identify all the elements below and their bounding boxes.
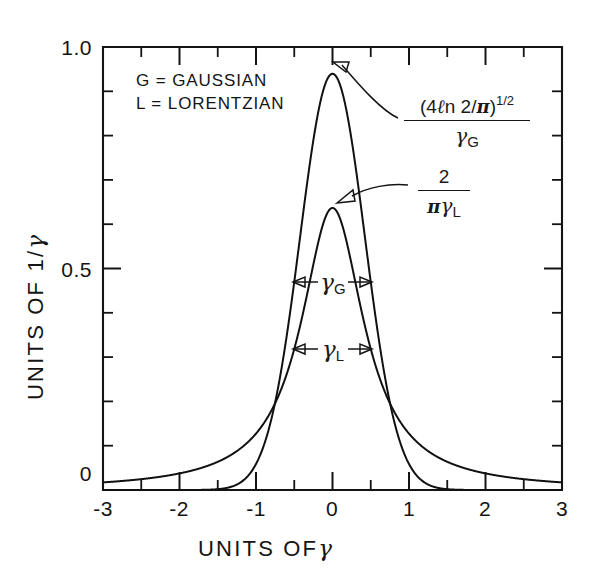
lorentzian-peak-annotation: 2 πγL bbox=[418, 166, 470, 220]
lorentzian-fraction-bar bbox=[418, 190, 470, 191]
x-axis-title-text: UNITS OF bbox=[198, 536, 318, 561]
gamma-g-width-label: γG bbox=[318, 269, 348, 297]
gaussian-peak-numerator: (4ℓn 2/π)1/2 bbox=[404, 93, 530, 119]
gamma-glyph-l: γ bbox=[440, 194, 452, 218]
gamma-l-width-subscript: L bbox=[336, 347, 344, 364]
xtick-label-1: 1 bbox=[389, 497, 429, 521]
gaussian-leader-line bbox=[342, 65, 398, 118]
gaussian-leader-arrowhead bbox=[333, 62, 349, 72]
script-l-glyph: ℓ bbox=[437, 95, 445, 117]
lineshape-comparison-figure: 1.0 0.5 0 -3 -2 -1 0 1 2 3 UNITS OFγ UNI… bbox=[0, 0, 590, 581]
pi-glyph-denominator: π bbox=[427, 196, 440, 217]
xtick-label-neg2: -2 bbox=[159, 497, 199, 521]
lorentzian-peak-numerator: 2 bbox=[418, 166, 470, 189]
gamma-subscript-l: L bbox=[452, 203, 460, 220]
y-axis-title: UNITS OF 1/γ bbox=[22, 233, 49, 400]
gamma-l-width-symbol: γ bbox=[322, 336, 336, 362]
gaussian-exponent: 1/2 bbox=[496, 93, 514, 108]
lorentzian-leader-line bbox=[352, 184, 408, 196]
xtick-label-3: 3 bbox=[542, 497, 582, 521]
plot-svg bbox=[0, 0, 590, 581]
gamma-g-width-subscript: G bbox=[334, 280, 346, 297]
y-axis-title-gamma: γ bbox=[22, 233, 48, 249]
gaussian-peak-denominator: γG bbox=[404, 123, 530, 150]
xtick-label-2: 2 bbox=[465, 497, 505, 521]
gamma-glyph-g: γ bbox=[455, 124, 467, 148]
gaussian-fraction-bar bbox=[404, 120, 530, 121]
xtick-label-neg3: -3 bbox=[83, 497, 123, 521]
xtick-label-neg1: -1 bbox=[236, 497, 276, 521]
lorentzian-peak-denominator: πγL bbox=[418, 193, 470, 220]
gamma-g-width-symbol: γ bbox=[320, 269, 334, 295]
legend-item-gaussian: G = GAUSSIAN bbox=[136, 71, 267, 91]
gamma-subscript-g: G bbox=[467, 133, 479, 150]
x-axis-title-gamma: γ bbox=[318, 535, 334, 561]
ytick-label-1: 1.0 bbox=[32, 36, 92, 60]
xtick-label-0: 0 bbox=[312, 497, 352, 521]
annotation-leaders bbox=[333, 62, 408, 203]
y-axis-title-text: UNITS OF 1/ bbox=[23, 249, 48, 400]
ytick-label-0: 0 bbox=[32, 462, 92, 486]
x-axis-title: UNITS OFγ bbox=[198, 535, 334, 562]
gaussian-peak-annotation: (4ℓn 2/π)1/2 γG bbox=[404, 93, 530, 150]
legend-item-lorentzian: L = LORENTZIAN bbox=[136, 94, 284, 114]
gamma-l-width-label: γL bbox=[318, 336, 348, 364]
pi-glyph-numerator: π bbox=[476, 96, 489, 117]
